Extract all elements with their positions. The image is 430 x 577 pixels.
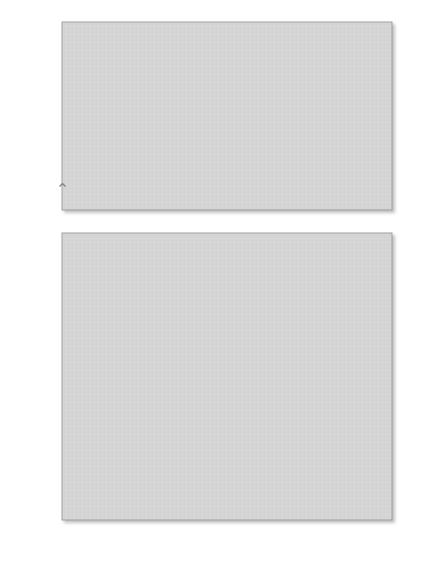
figure-container [0,0,430,577]
plot-area-interest-expense [60,22,393,210]
plot-area-annual-profit [62,233,392,520]
plot-background-bottom [62,233,392,520]
chart-canvas [0,0,430,577]
plot-background-top [62,22,392,210]
